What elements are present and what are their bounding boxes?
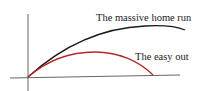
- x-axis: [10, 75, 180, 78]
- trajectory-diagram: The massive home run The easy out: [0, 0, 197, 91]
- easy-out-label: The easy out: [135, 52, 189, 63]
- home-run-label: The massive home run: [96, 13, 191, 24]
